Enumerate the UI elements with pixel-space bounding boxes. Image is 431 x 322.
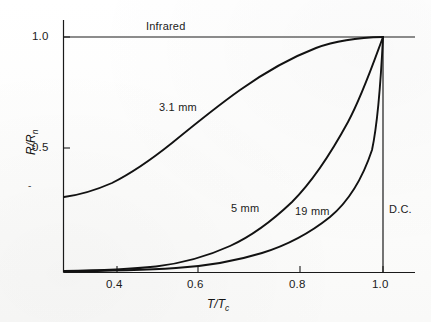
dc-label: D.C. bbox=[389, 203, 412, 215]
x-tick-label-0.6: 0.6 bbox=[187, 278, 204, 290]
curve-3.1mm bbox=[64, 37, 383, 197]
y-tick-label-1.0: 1.0 bbox=[32, 30, 49, 42]
y-axis-title-main: R/R bbox=[24, 134, 38, 155]
y-axis-title: R/Rn bbox=[24, 130, 40, 155]
infrared-label: Infrared bbox=[146, 20, 186, 32]
curve-19mm bbox=[64, 37, 383, 272]
x-axis-title-subscript: c bbox=[225, 303, 229, 313]
y-axis-title-subscript: n bbox=[30, 130, 40, 135]
x-axis-title: T/Tc bbox=[207, 297, 229, 313]
figure-container: 1.0 0.5 0.4 0.6 0.8 1.0 R/Rn T/Tc Infrar… bbox=[0, 0, 431, 322]
x-axis-title-main: T/T bbox=[207, 297, 225, 311]
scan-artifact-mark: - bbox=[28, 180, 31, 191]
x-tick-label-1.0: 1.0 bbox=[372, 278, 389, 290]
x-tick-label-0.8: 0.8 bbox=[289, 278, 306, 290]
curve-5mm bbox=[64, 37, 383, 271]
x-tick-label-0.4: 0.4 bbox=[106, 278, 123, 290]
curve-label-19mm: 19 mm bbox=[295, 205, 330, 217]
plot-svg bbox=[0, 0, 431, 322]
curve-label-5mm: 5 mm bbox=[231, 202, 259, 214]
curve-label-3.1mm: 3.1 mm bbox=[159, 101, 197, 113]
